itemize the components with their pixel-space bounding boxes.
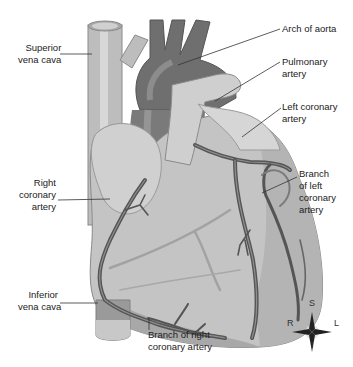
label-right-coronary-artery: Right coronary artery — [18, 177, 56, 213]
label-line: Inferior — [18, 289, 58, 301]
label-line: Left coronary — [282, 101, 337, 113]
label-superior-vena-cava: Superior vena cava — [18, 42, 61, 66]
label-line: artery — [282, 68, 327, 80]
label-pulmonary-artery: Pulmonary artery — [282, 56, 327, 80]
label-arch-of-aorta: Arch of aorta — [282, 23, 336, 35]
label-branch-of-right-coronary-artery: Branch of right coronary artery — [148, 329, 212, 353]
label-line: Superior — [18, 42, 61, 54]
compass-left: L — [334, 318, 339, 328]
label-line: Branch of right — [148, 329, 212, 341]
label-line: artery — [299, 204, 336, 216]
label-line: Pulmonary — [282, 56, 327, 68]
compass-right: R — [287, 318, 294, 328]
label-line: artery — [282, 113, 337, 125]
compass-superior: S — [309, 298, 315, 308]
label-line: vena cava — [18, 54, 61, 66]
compass-inferior: I — [311, 340, 314, 350]
label-line: Branch — [299, 168, 336, 180]
heart-diagram: Superior vena cava Arch of aorta Pulmona… — [0, 0, 353, 367]
label-line: coronary — [18, 189, 56, 201]
label-line: coronary artery — [148, 341, 212, 353]
label-line: artery — [18, 201, 56, 213]
label-inferior-vena-cava: Inferior vena cava — [18, 289, 58, 313]
label-line: Arch of aorta — [282, 23, 336, 35]
label-line: Right — [18, 177, 56, 189]
label-branch-of-left-coronary-artery: Branch of left coronary artery — [299, 168, 336, 216]
label-line: coronary — [299, 192, 336, 204]
label-left-coronary-artery: Left coronary artery — [282, 101, 337, 125]
label-line: of left — [299, 180, 336, 192]
label-line: vena cava — [18, 301, 58, 313]
